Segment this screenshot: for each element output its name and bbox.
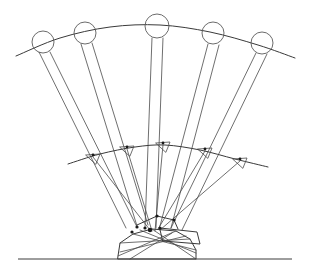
mid-joint-dot-3 [162, 142, 165, 145]
joint-dot-4 [155, 214, 158, 217]
mechanism-diagram-figure [0, 0, 310, 274]
mid-joint-dot-5 [239, 158, 242, 161]
base-pivot-dot [148, 228, 152, 232]
mechanism-diagram-canvas [0, 0, 310, 274]
joint-dot-7 [158, 226, 161, 229]
mid-joint-dot-4 [204, 148, 207, 151]
mid-joint-dot-2 [126, 146, 129, 149]
joint-dot-6 [130, 230, 133, 233]
joint-dot-2 [135, 225, 138, 228]
joint-dot-3 [143, 226, 146, 229]
mid-joint-dot-1 [92, 154, 95, 157]
joint-dot-5 [172, 218, 175, 221]
figure-background [0, 0, 310, 274]
